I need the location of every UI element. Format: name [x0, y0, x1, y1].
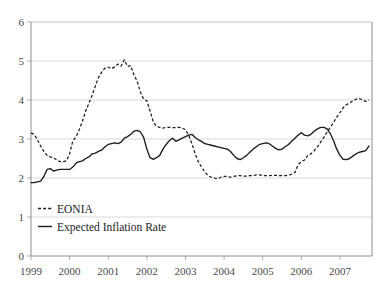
- x-axis-tick-label: 2002: [136, 265, 158, 277]
- y-axis-tick-marks: [27, 22, 31, 256]
- gridlines: [31, 22, 372, 217]
- y-axis-tick-label: 4: [19, 94, 25, 106]
- y-axis-tick-label: 6: [19, 16, 25, 28]
- y-axis-tick-label: 2: [19, 172, 25, 184]
- x-axis-tick-label: 2003: [174, 265, 197, 277]
- legend: EONIA Expected Inflation Rate: [38, 203, 166, 234]
- legend-label-eonia: EONIA: [57, 203, 93, 215]
- chart-container: 0123456 19992000200120022003200420052006…: [0, 0, 390, 293]
- x-axis-tick-label: 2000: [59, 265, 82, 277]
- y-axis-tick-label: 1: [19, 211, 25, 223]
- y-axis-tick-label: 5: [19, 55, 25, 67]
- legend-label-expected-inflation-rate: Expected Inflation Rate: [57, 221, 166, 234]
- x-axis-tick-label: 2005: [252, 265, 275, 277]
- x-axis-tick-label: 2004: [213, 265, 236, 277]
- x-axis-tick-marks: [31, 256, 340, 260]
- x-axis-tick-label: 2006: [290, 265, 313, 277]
- line-chart: 0123456 19992000200120022003200420052006…: [0, 0, 390, 293]
- y-axis-labels: 0123456: [19, 16, 25, 262]
- x-axis-labels: 199920002001200220032004200520062007: [20, 265, 351, 277]
- x-axis-tick-label: 2001: [97, 265, 119, 277]
- y-axis-tick-label: 0: [19, 250, 25, 262]
- series-line-expected-inflation-rate: [31, 127, 369, 182]
- x-axis-tick-label: 2007: [329, 265, 352, 277]
- x-axis-tick-label: 1999: [20, 265, 43, 277]
- y-axis-tick-label: 3: [19, 133, 25, 145]
